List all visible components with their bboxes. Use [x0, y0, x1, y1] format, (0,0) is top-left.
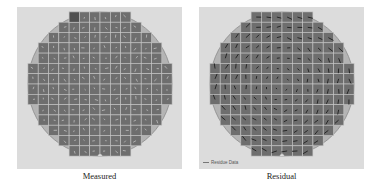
die-grid [210, 12, 354, 156]
legend-line-icon [203, 162, 209, 163]
die-grid [28, 12, 172, 156]
residual-panel: Residue Data [199, 7, 364, 169]
residual-caption: Residual [199, 171, 364, 181]
measured-wafer-map [17, 7, 182, 169]
measured-panel [17, 7, 182, 169]
measured-caption: Measured [17, 171, 182, 181]
residual-legend: Residue Data [203, 160, 238, 165]
residual-wafer-map [199, 7, 364, 169]
legend-label: Residue Data [211, 160, 238, 165]
